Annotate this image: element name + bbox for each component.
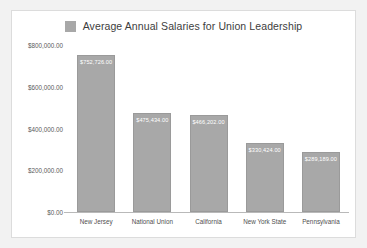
bar-slot-new-jersey: $752,726.00 New Jersey [68, 45, 124, 212]
x-axis-category-national-union: National Union [132, 218, 173, 225]
x-axis-category-california: California [195, 218, 222, 225]
bar-new-york-state[interactable]: $330,424.00 [246, 143, 284, 212]
bar-slot-pennsylvania: $289,189.00 Pennsylvania [293, 45, 349, 212]
y-axis-tick-200000: $200,000.00 [28, 167, 63, 174]
y-axis-tick-0: $0.00 [47, 209, 63, 216]
y-axis-tick-400000: $400,000.00 [28, 125, 63, 132]
x-axis-category-pennsylvania: Pennsylvania [302, 218, 339, 225]
bar-slot-california: $466,202.00 California [180, 45, 236, 212]
bar-california[interactable]: $466,202.00 [190, 115, 228, 212]
chart-screenshot: Average Annual Salaries for Union Leader… [0, 0, 367, 248]
chart-panel: Average Annual Salaries for Union Leader… [11, 10, 356, 238]
x-axis-category-new-york-state: New York State [243, 218, 286, 225]
bar-pennsylvania[interactable]: $289,189.00 [302, 152, 340, 212]
bar-value-label-new-jersey: $752,726.00 [80, 59, 112, 65]
plot-area: $800,000.00 $600,000.00 $400,000.00 $200… [68, 45, 349, 212]
x-axis-category-new-jersey: New Jersey [80, 218, 113, 225]
bar-series: $752,726.00 New Jersey $475,434.00 Natio… [68, 45, 349, 212]
chart-title: Average Annual Salaries for Union Leader… [83, 20, 303, 32]
chart-title-row: Average Annual Salaries for Union Leader… [12, 20, 355, 32]
bar-slot-new-york-state: $330,424.00 New York State [237, 45, 293, 212]
bar-value-label-pennsylvania: $289,189.00 [305, 156, 337, 162]
y-axis-tick-600000: $600,000.00 [28, 83, 63, 90]
legend-color-swatch [65, 21, 76, 32]
bar-national-union[interactable]: $475,434.00 [133, 113, 171, 212]
bar-slot-national-union: $475,434.00 National Union [124, 45, 180, 212]
y-axis-tick-800000: $800,000.00 [28, 42, 63, 49]
bar-value-label-new-york-state: $330,424.00 [249, 147, 281, 153]
bar-value-label-california: $466,202.00 [192, 119, 224, 125]
x-axis-baseline [64, 212, 349, 213]
bar-value-label-national-union: $475,434.00 [136, 117, 168, 123]
bar-new-jersey[interactable]: $752,726.00 [77, 55, 115, 212]
